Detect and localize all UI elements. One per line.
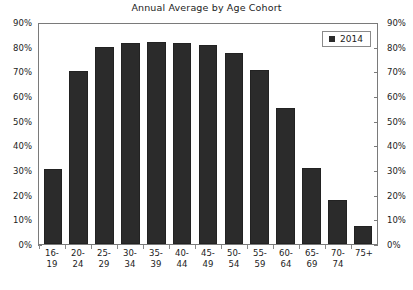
y-tick-label-left-3: 60% [13, 92, 32, 102]
x-axis-label-30-34: 30-34 [117, 248, 143, 269]
y-tick-mark-right-0 [374, 23, 378, 24]
bar-slot-25-29 [92, 24, 118, 244]
bar-slot-70-74 [324, 24, 350, 244]
bar-55-59[interactable] [250, 70, 269, 244]
y-tick-mark-right-1 [374, 48, 378, 49]
bar-35-39[interactable] [147, 42, 166, 244]
y-tick-label-right-1: 80% [387, 43, 406, 53]
x-axis-label-line: 25- [91, 248, 117, 259]
x-axis-label-line: 29 [91, 259, 117, 270]
bar-slot-30-34 [118, 24, 144, 244]
y-axis-right: 90%80%70%60%50%40%30%20%10%0% [381, 23, 413, 245]
x-axis-label-line: 16- [39, 248, 65, 259]
y-tick-mark-right-7 [374, 196, 378, 197]
y-tick-label-right-8: 10% [387, 215, 406, 225]
x-axis-label-60-64: 60-64 [273, 248, 299, 269]
x-axis-label-line: 55- [247, 248, 273, 259]
x-axis-label-line: 54 [221, 259, 247, 270]
x-axis-label-20-24: 20-24 [65, 248, 91, 269]
y-tick-label-left-9: 0% [19, 240, 33, 250]
y-tick-mark-right-6 [374, 171, 378, 172]
x-axis-label-line: 40- [169, 248, 195, 259]
bar-slot-55-59 [247, 24, 273, 244]
x-axis-label-line: 59 [247, 259, 273, 270]
y-tick-label-left-7: 20% [13, 191, 32, 201]
bar-slot-20-24 [66, 24, 92, 244]
x-axis-label-65-69: 65-69 [299, 248, 325, 269]
x-axis-label-line: 74 [325, 259, 351, 270]
x-axis-label-line: 30- [117, 248, 143, 259]
y-tick-mark-right-5 [374, 146, 378, 147]
y-axis-left: 90%80%70%60%50%40%30%20%10%0% [1, 23, 35, 245]
bar-slot-50-54 [221, 24, 247, 244]
x-axis-label-line: 24 [65, 259, 91, 270]
bar-25-29[interactable] [95, 47, 114, 244]
y-tick-label-right-2: 70% [387, 67, 406, 77]
bar-slot-40-44 [169, 24, 195, 244]
x-axis-label-line: 50- [221, 248, 247, 259]
bar-65-69[interactable] [302, 168, 321, 244]
bar-40-44[interactable] [173, 43, 192, 244]
y-tick-mark-right-2 [374, 72, 378, 73]
bars-layer [39, 24, 377, 244]
y-tick-label-right-9: 0% [387, 240, 401, 250]
x-axis-label-40-44: 40-44 [169, 248, 195, 269]
y-tick-label-right-3: 60% [387, 92, 406, 102]
bar-chart: Annual Average by Age Cohort 90%80%70%60… [0, 0, 413, 290]
y-tick-mark-right-4 [374, 122, 378, 123]
x-axis-label-16-19: 16-19 [39, 248, 65, 269]
x-axis-label-line: 34 [117, 259, 143, 270]
x-axis-label-line: 49 [195, 259, 221, 270]
bar-slot-60-64 [273, 24, 299, 244]
x-axis-label-line: 70- [325, 248, 351, 259]
bar-45-49[interactable] [199, 45, 218, 244]
x-axis-label-line: 19 [39, 259, 65, 270]
y-tick-label-right-5: 40% [387, 141, 406, 151]
x-axis-label-line: 35- [143, 248, 169, 259]
chart-title: Annual Average by Age Cohort [0, 2, 413, 13]
x-axis-label-55-59: 55-59 [247, 248, 273, 269]
y-tick-label-right-6: 30% [387, 166, 406, 176]
y-tick-label-left-8: 10% [13, 215, 32, 225]
x-axis-label-line: 39 [143, 259, 169, 270]
y-tick-label-right-7: 20% [387, 191, 406, 201]
x-axis-label-50-54: 50-54 [221, 248, 247, 269]
y-tick-label-left-0: 90% [13, 18, 32, 28]
x-axis-label-line: 45- [195, 248, 221, 259]
bar-slot-45-49 [195, 24, 221, 244]
y-tick-label-left-5: 40% [13, 141, 32, 151]
bar-slot-16-19 [40, 24, 66, 244]
x-axis-label-45-49: 45-49 [195, 248, 221, 269]
x-axis-label-75+: 75+ [351, 248, 377, 269]
y-tick-label-left-6: 30% [13, 166, 32, 176]
bar-75+[interactable] [354, 226, 373, 245]
bar-30-34[interactable] [121, 43, 140, 244]
y-tick-mark-right-8 [374, 220, 378, 221]
y-axis-right-ticks [373, 23, 378, 245]
y-tick-label-left-2: 70% [13, 67, 32, 77]
bar-20-24[interactable] [69, 71, 88, 244]
x-axis-label-35-39: 35-39 [143, 248, 169, 269]
bar-16-19[interactable] [44, 169, 63, 244]
y-tick-label-left-1: 80% [13, 43, 32, 53]
y-tick-label-left-4: 50% [13, 117, 32, 127]
x-axis-label-line: 60- [273, 248, 299, 259]
y-tick-label-right-4: 50% [387, 117, 406, 127]
x-axis-label-25-29: 25-29 [91, 248, 117, 269]
x-axis-label-line: 75+ [351, 248, 377, 259]
x-axis-labels: 16-1920-2425-2930-3435-3940-4445-4950-54… [38, 248, 378, 269]
x-axis-label-line: 65- [299, 248, 325, 259]
chart-legend[interactable]: 2014 [322, 31, 371, 47]
x-axis-label-line: 20- [65, 248, 91, 259]
bar-slot-35-39 [143, 24, 169, 244]
plot-area [38, 23, 378, 245]
bar-60-64[interactable] [276, 108, 295, 244]
x-axis-label-line: 69 [299, 259, 325, 270]
x-axis-label-line: 64 [273, 259, 299, 270]
bar-slot-65-69 [298, 24, 324, 244]
legend-swatch-2014 [329, 36, 335, 42]
bar-50-54[interactable] [225, 53, 244, 244]
legend-label-2014: 2014 [340, 34, 363, 44]
bar-70-74[interactable] [328, 200, 347, 244]
y-tick-mark-right-3 [374, 97, 378, 98]
